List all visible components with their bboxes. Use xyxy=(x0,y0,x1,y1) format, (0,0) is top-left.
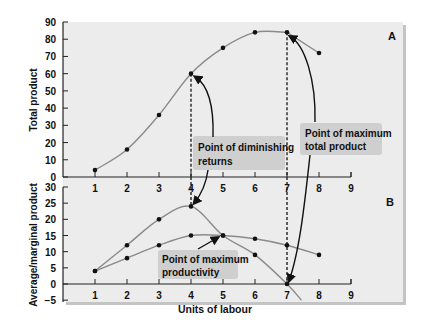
total-product-point xyxy=(93,168,98,173)
y-tick-label: 20 xyxy=(45,138,57,149)
y-tick-label: 30 xyxy=(45,182,57,193)
total-product-point xyxy=(253,30,258,35)
total-product-point xyxy=(125,147,130,152)
annotation-max-productivity-line2: productivity xyxy=(162,267,220,278)
y-tick-label: 50 xyxy=(45,86,57,97)
x-axis-title: Units of labour xyxy=(178,303,252,315)
y-tick-label: 20 xyxy=(45,214,57,225)
x-tick-label: 6 xyxy=(252,290,258,301)
y-tick-label: 70 xyxy=(45,51,57,62)
x-tick-label: 8 xyxy=(316,183,322,194)
y-tick-label: 40 xyxy=(45,103,57,114)
x-tick-label: 1 xyxy=(92,290,98,301)
marginal-product-point xyxy=(285,282,290,287)
annotation-diminishing-returns-line1: Point of diminishing xyxy=(198,142,294,153)
marginal-product-point xyxy=(157,217,162,222)
panel-b-label: B xyxy=(386,196,394,208)
y-tick-label: 30 xyxy=(45,120,57,131)
annotation-max-total-product-line2: total product xyxy=(305,141,367,152)
total-product-point xyxy=(189,71,194,76)
total-product-point xyxy=(285,30,290,35)
total-product-point xyxy=(221,46,226,51)
x-tick-label: 4 xyxy=(188,183,194,194)
marginal-product-point xyxy=(125,243,130,248)
marginal-product-point xyxy=(189,204,194,209)
average-product-point xyxy=(221,233,226,238)
average-product-point xyxy=(189,233,194,238)
marginal-product-point xyxy=(253,253,258,258)
annotation-diminishing-returns-line2: returns xyxy=(198,156,233,167)
y-tick-label: 15 xyxy=(45,231,57,242)
chart-canvas: 0102030405060708090123456789−50510152025… xyxy=(0,0,424,330)
y-tick-label: 10 xyxy=(45,155,57,166)
y-tick-label: 80 xyxy=(45,34,57,45)
annotation-max-productivity-line1: Point of maximum xyxy=(162,254,249,265)
x-tick-label: 4 xyxy=(188,290,194,301)
x-tick-label: 5 xyxy=(220,290,226,301)
x-tick-label: 2 xyxy=(124,183,130,194)
average-product-point xyxy=(125,256,130,261)
x-tick-label: 1 xyxy=(92,183,98,194)
panel-a-y-axis-title: Total product xyxy=(28,68,39,132)
y-tick-label: 60 xyxy=(45,69,57,80)
annotation-max-total-product-line1: Point of maximum xyxy=(305,128,392,139)
x-tick-label: 7 xyxy=(284,290,290,301)
y-tick-label: 5 xyxy=(50,263,56,274)
x-tick-label: 3 xyxy=(156,290,162,301)
average-product-point xyxy=(285,243,290,248)
x-tick-label: 2 xyxy=(124,290,130,301)
x-tick-label: 9 xyxy=(348,290,354,301)
y-tick-label: −5 xyxy=(45,295,57,306)
y-tick-label: 90 xyxy=(45,17,57,28)
x-tick-label: 9 xyxy=(348,183,354,194)
x-tick-label: 8 xyxy=(316,290,322,301)
average-product-point xyxy=(317,253,322,258)
y-tick-label: 0 xyxy=(50,279,56,290)
average-product-point xyxy=(157,243,162,248)
panel-a-label: A xyxy=(388,30,396,42)
y-tick-label: 25 xyxy=(45,198,57,209)
panel-b-y-axis-title: Average/marginal product xyxy=(28,183,39,307)
x-tick-label: 3 xyxy=(156,183,162,194)
x-tick-label: 6 xyxy=(252,183,258,194)
y-tick-label: 10 xyxy=(45,247,57,258)
average-product-point xyxy=(253,236,258,241)
x-tick-label: 5 xyxy=(220,183,226,194)
production-chart-figure: 0102030405060708090123456789−50510152025… xyxy=(0,0,424,330)
average-product-point xyxy=(93,269,98,274)
total-product-point xyxy=(157,113,162,118)
total-product-point xyxy=(317,51,322,56)
x-tick-label: 7 xyxy=(284,183,290,194)
